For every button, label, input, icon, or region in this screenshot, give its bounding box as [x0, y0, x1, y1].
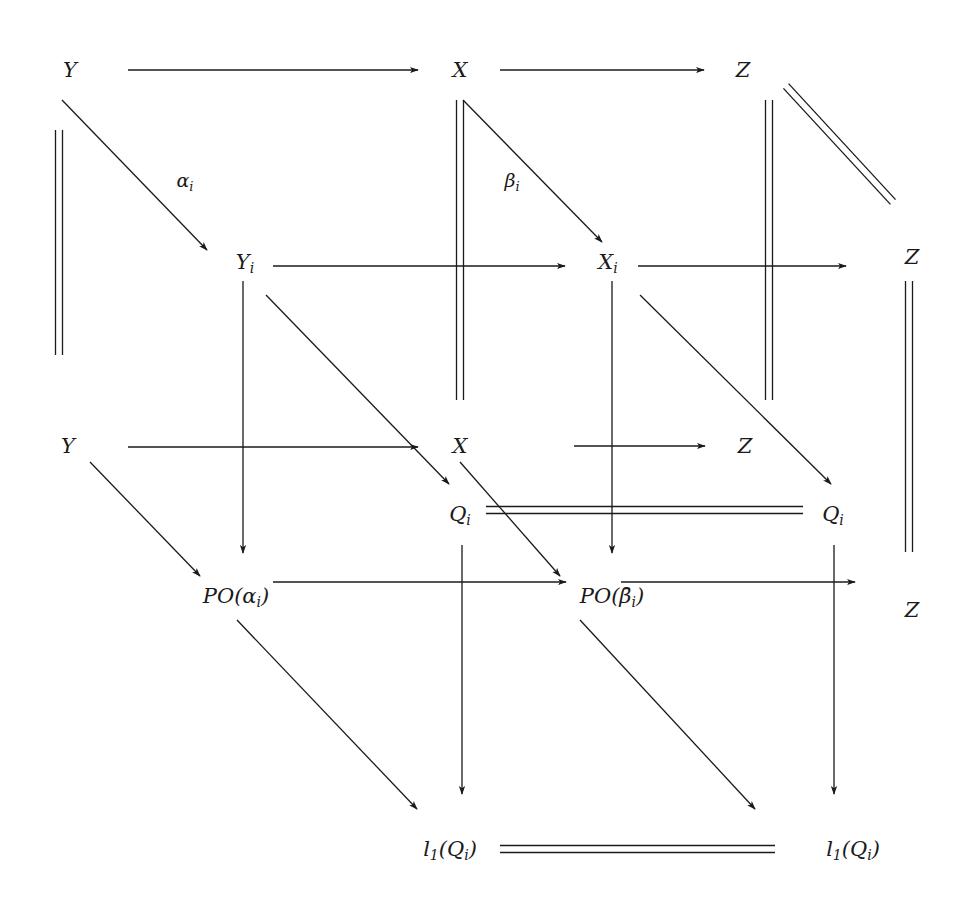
node-tail: )	[636, 584, 644, 608]
diagram-edges	[0, 0, 969, 907]
node-z-midright: Z	[905, 247, 920, 268]
node-z-top: Z	[736, 60, 751, 81]
node-subscript: i	[613, 260, 617, 276]
label-subscript: i	[189, 179, 193, 194]
label-base: α	[176, 169, 189, 191]
node-base: l	[423, 837, 430, 861]
node-y-i: Yi	[236, 252, 254, 275]
equality-x-top-x-mid	[457, 100, 464, 400]
node-y-top: Y	[63, 60, 77, 81]
node-tail: )	[872, 837, 880, 861]
equality-q-i-left-q-i-right	[486, 507, 803, 514]
node-base: Z	[905, 245, 920, 269]
node-base: X	[598, 250, 613, 274]
arrow-po-alpha-to-l1-q-left	[237, 620, 417, 809]
node-x-i: Xi	[598, 252, 617, 275]
label-base: β	[504, 169, 515, 191]
node-base: Y	[63, 58, 77, 82]
equality-z-top-z-midright	[783, 84, 895, 205]
equality-z-midright-z-bottomright	[906, 281, 913, 552]
node-base: Z	[738, 434, 753, 458]
node-q-i-left: Qi	[449, 504, 471, 527]
node-base: PO(α	[203, 584, 257, 608]
node-base: Q	[449, 502, 466, 526]
equality-z-top-z-mid	[766, 100, 773, 400]
edge-label-beta-i: βi	[504, 171, 519, 193]
arrow-x-i-to-q-i-right	[640, 295, 831, 484]
node-l1-q-right: l1(Qi)	[826, 839, 880, 862]
equality-y-top-y-mid	[56, 130, 63, 355]
node-z-bottomright: Z	[905, 600, 920, 621]
node-base: Q	[822, 502, 839, 526]
node-base: Y	[61, 434, 75, 458]
node-po-beta: PO(β̄i)	[580, 586, 644, 609]
node-base: Z	[736, 58, 751, 82]
arrow-y-mid-to-po-alpha	[90, 462, 200, 576]
node-tail: )	[469, 837, 477, 861]
node-x-mid: X	[453, 436, 468, 457]
node-tail: (Q	[439, 837, 464, 861]
node-z-mid: Z	[738, 436, 753, 457]
equality-stroke	[783, 88, 890, 204]
arrow-po-beta-to-l1-q-right	[580, 620, 755, 809]
node-subscript: 1	[833, 847, 842, 863]
node-base: X	[453, 58, 468, 82]
node-q-i-right: Qi	[822, 504, 844, 527]
arrow-y-i-to-q-i-left	[266, 295, 449, 484]
node-x-top: X	[453, 60, 468, 81]
node-subscript: i	[250, 260, 254, 276]
node-l1-q-left: l1(Qi)	[423, 839, 477, 862]
node-subscript: i	[839, 512, 843, 528]
node-tail: )	[261, 584, 269, 608]
edge-label-alpha-i: αi	[176, 171, 193, 193]
arrow-x-top-to-x-i	[463, 100, 602, 242]
node-po-alpha: PO(αi)	[203, 586, 269, 609]
node-base: Z	[905, 598, 920, 622]
equality-stroke	[789, 84, 896, 200]
commutative-diagram: YXZYiXiZYXZQiQiPO(αi)PO(β̄i)Zl1(Qi)l1(Qi…	[0, 0, 969, 907]
label-subscript: i	[515, 179, 519, 194]
node-y-mid: Y	[61, 436, 75, 457]
node-subscript: i	[466, 512, 470, 528]
node-base: PO(β̄	[580, 584, 632, 608]
node-base: X	[453, 434, 468, 458]
node-subscript: 1	[430, 847, 439, 863]
equality-layer	[56, 84, 913, 853]
equality-l1-q-left-l1-q-right	[500, 846, 775, 853]
node-base: l	[826, 837, 833, 861]
node-tail: (Q	[842, 837, 867, 861]
node-base: Y	[236, 250, 250, 274]
arrow-x-mid-to-po-beta	[460, 462, 560, 576]
